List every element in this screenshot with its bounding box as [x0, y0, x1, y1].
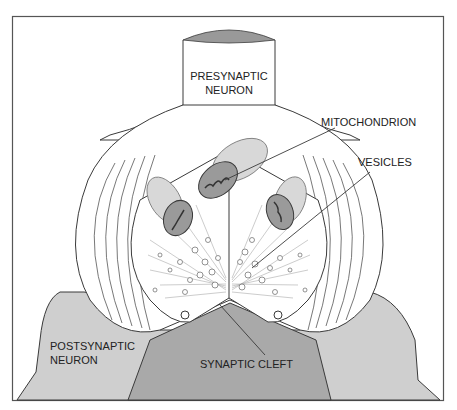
docked-vesicle-left [181, 311, 189, 319]
label-vesicles: VESICLES [358, 156, 412, 168]
label-presynaptic-1: PRESYNAPTIC [190, 70, 268, 82]
label-mitochondrion: MITOCHONDRION [321, 116, 416, 128]
label-postsynaptic-2: NEURON [50, 354, 98, 366]
label-synaptic-cleft: SYNAPTIC CLEFT [200, 358, 293, 370]
label-postsynaptic-1: POSTSYNAPTIC [50, 340, 135, 352]
label-presynaptic-2: NEURON [205, 84, 253, 96]
docked-vesicle-right [274, 311, 282, 319]
axon-cut-surface [183, 30, 275, 43]
synapse-diagram: PRESYNAPTIC NEURON MITOCHONDRION VESICLE… [0, 0, 457, 410]
